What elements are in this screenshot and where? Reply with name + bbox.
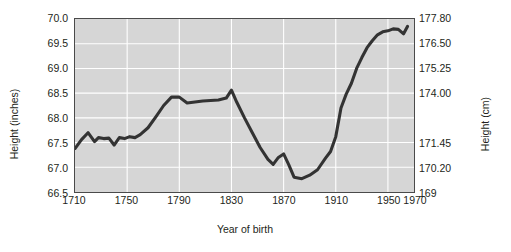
x-tick: 1970 — [403, 195, 426, 206]
x-tick: 1870 — [272, 195, 295, 206]
x-axis-ticks: 17101750179018301870191019501970 — [0, 0, 511, 252]
x-tick: 1710 — [62, 195, 85, 206]
y-axis-left-title: Height (inches) — [8, 79, 20, 169]
x-tick: 1790 — [167, 195, 190, 206]
x-axis-title: Year of birth — [0, 223, 490, 235]
y-axis-right-title: Height (cm) — [479, 79, 491, 169]
x-tick: 1950 — [377, 195, 400, 206]
x-tick: 1830 — [220, 195, 243, 206]
height-by-birth-year-chart: 66.567.067.568.068.569.069.570.0 169170.… — [0, 0, 511, 252]
x-tick: 1910 — [325, 195, 348, 206]
x-tick: 1750 — [115, 195, 138, 206]
